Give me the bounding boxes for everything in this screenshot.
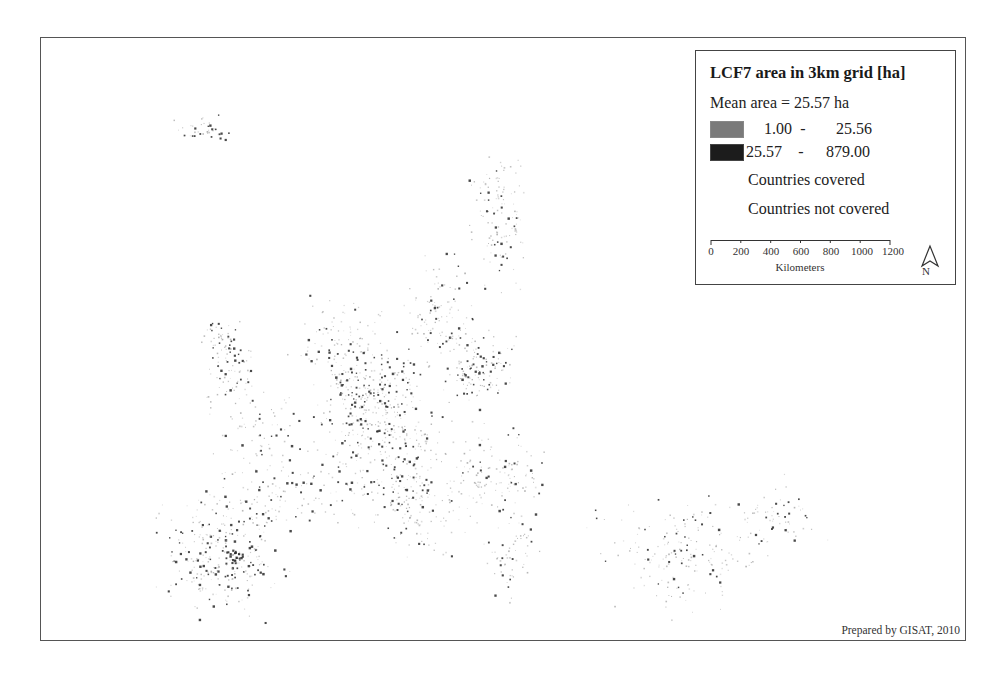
legend-countries-covered-label: Countries covered xyxy=(748,171,865,189)
scale-bar: 0 200 400 600 800 1000 1200 Kilometers xyxy=(710,239,890,279)
legend-swatch-high xyxy=(710,144,744,161)
scale-tick-1000: 1000 xyxy=(851,245,873,257)
map-frame: LCF7 area in 3km grid [ha] Mean area = 2… xyxy=(40,37,966,641)
scale-tick-600: 600 xyxy=(793,245,810,257)
map-credit: Prepared by GISAT, 2010 xyxy=(841,624,960,636)
legend-title: LCF7 area in 3km grid [ha] xyxy=(710,63,905,83)
legend-class-low: 1.00 - 25.56 xyxy=(710,118,872,140)
legend-swatch-covered xyxy=(710,172,744,189)
legend-swatch-not-covered xyxy=(710,201,744,218)
north-arrow-label: N xyxy=(922,265,930,277)
legend-class-high-min: 25.57 xyxy=(746,143,790,161)
scale-bar-unit: Kilometers xyxy=(710,261,890,273)
map-legend: LCF7 area in 3km grid [ha] Mean area = 2… xyxy=(695,50,956,285)
scale-tick-0: 0 xyxy=(708,245,714,257)
legend-countries-not-covered-label: Countries not covered xyxy=(748,200,889,218)
legend-countries-not-covered: Countries not covered xyxy=(710,198,889,220)
legend-class-low-min: 1.00 xyxy=(744,120,792,138)
scale-tick-1200: 1200 xyxy=(882,245,904,257)
legend-class-high: 25.57 - 879.00 xyxy=(710,141,870,163)
legend-swatch-low xyxy=(710,121,744,138)
legend-class-low-sep: - xyxy=(792,120,814,138)
scale-tick-200: 200 xyxy=(733,245,750,257)
scale-tick-800: 800 xyxy=(823,245,840,257)
legend-class-low-max: 25.56 xyxy=(814,120,872,138)
legend-countries-covered: Countries covered xyxy=(710,169,865,191)
legend-mean-area: Mean area = 25.57 ha xyxy=(710,94,849,112)
legend-class-high-max: 879.00 xyxy=(812,143,870,161)
scale-bar-labels: 0 200 400 600 800 1000 1200 xyxy=(710,245,910,259)
scale-tick-400: 400 xyxy=(763,245,780,257)
legend-class-high-sep: - xyxy=(790,143,812,161)
north-arrow-icon xyxy=(918,244,942,284)
